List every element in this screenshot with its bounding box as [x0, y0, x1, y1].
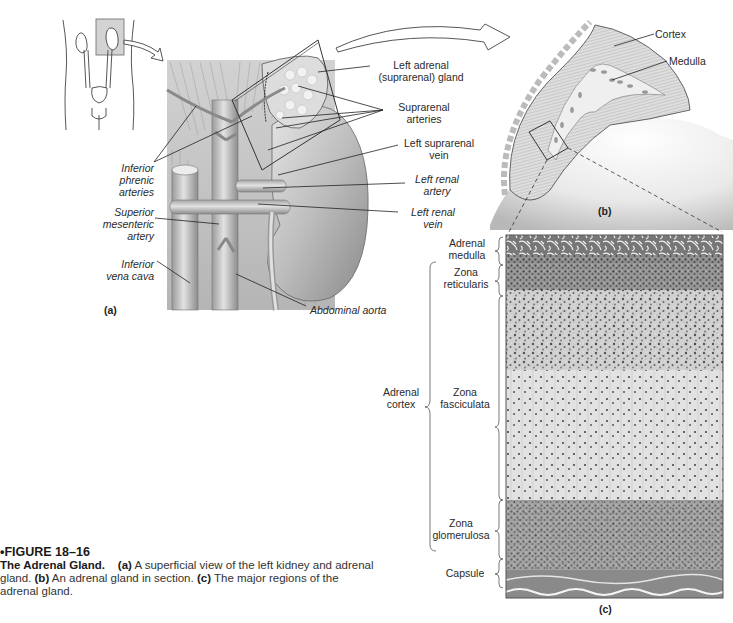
label-line: glomerulosa [428, 529, 494, 541]
label-inferior-vena-cava: Inferior vena cava [96, 258, 154, 282]
label-line: Zona [436, 386, 494, 398]
label-line: reticularis [438, 278, 494, 290]
label-cortex: Cortex [655, 28, 686, 40]
label-abdominal-aorta: Abdominal aorta [310, 304, 386, 316]
label-left-adrenal-gland: Left adrenal (suprarenal) gland [366, 59, 476, 83]
label-adrenal-cortex: Adrenal cortex [378, 386, 424, 410]
caption-body: The Adrenal Gland. (a) A superficial vie… [0, 559, 380, 598]
label-line: vena cava [96, 270, 154, 282]
label-line: Zona [438, 266, 494, 278]
panel-c-letter: (c) [599, 603, 612, 615]
panel-a-letter: (a) [104, 304, 117, 316]
label-line: mesenteric [96, 218, 154, 230]
figure-caption: •FIGURE 18–16 The Adrenal Gland. (a) A s… [0, 546, 380, 598]
label-line: Left renal [398, 206, 468, 218]
label-left-suprarenal-vein: Left suprarenal vein [396, 137, 482, 161]
label-line: Adrenal [440, 237, 494, 249]
label-left-renal-artery: Left renal artery [402, 173, 472, 197]
callout-arrow [336, 24, 510, 52]
caption-label-c: (c) [197, 572, 211, 584]
label-zona-fasciculata: Zona fasciculata [436, 386, 494, 410]
label-medulla: Medulla [669, 55, 706, 67]
label-line: phrenic [104, 174, 154, 186]
label-inferior-phrenic-arteries: Inferior phrenic arteries [104, 162, 154, 198]
label-line: Inferior [104, 162, 154, 174]
label-line: arteries [384, 113, 464, 125]
body-outline-inset [63, 19, 134, 130]
figure-title: The Adrenal Gland. [0, 559, 105, 571]
inset-arrow [124, 40, 163, 61]
adrenal-section-illustration [490, 22, 733, 232]
caption-label-b: (b) [35, 572, 50, 584]
label-line: arteries [104, 186, 154, 198]
label-line: Left suprarenal [396, 137, 482, 149]
label-line: cortex [378, 398, 424, 410]
label-line: vein [396, 149, 482, 161]
label-line: Left adrenal [366, 59, 476, 71]
label-line: vein [398, 218, 468, 230]
label-line: artery [96, 230, 154, 242]
label-line: fasciculata [436, 398, 494, 410]
label-capsule: Capsule [440, 567, 490, 579]
label-line: Superior [96, 206, 154, 218]
label-line: Suprarenal [384, 101, 464, 113]
label-line: medulla [440, 249, 494, 261]
label-zona-reticularis: Zona reticularis [438, 266, 494, 290]
figure-number: •FIGURE 18–16 [0, 546, 380, 559]
panel-b-letter: (b) [598, 205, 611, 217]
label-line: Adrenal [378, 386, 424, 398]
label-adrenal-medulla: Adrenal medulla [440, 237, 494, 261]
label-line: artery [402, 185, 472, 197]
caption-text-b: An adrenal gland in section. [49, 572, 197, 584]
label-line: Left renal [402, 173, 472, 185]
label-superior-mesenteric-artery: Superior mesenteric artery [96, 206, 154, 242]
micrograph [506, 235, 723, 598]
label-line: Inferior [96, 258, 154, 270]
kidney-illustration [167, 40, 368, 310]
label-left-renal-vein: Left renal vein [398, 206, 468, 230]
label-line: (suprarenal) gland [366, 71, 476, 83]
label-line: Zona [428, 517, 494, 529]
caption-label-a: (a) [118, 559, 132, 571]
label-zona-glomerulosa: Zona glomerulosa [428, 517, 494, 541]
label-suprarenal-arteries: Suprarenal arteries [384, 101, 464, 125]
